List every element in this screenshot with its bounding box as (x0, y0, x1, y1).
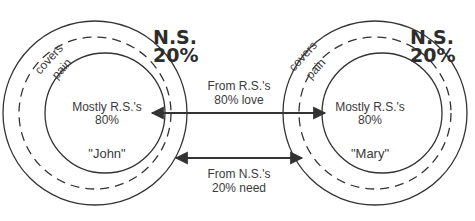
right-core-label: Mostly R.S.'s (335, 100, 405, 114)
left-core-pct: 80% (95, 113, 119, 127)
love-label-line2: 80% love (214, 93, 264, 107)
need-label-line2: 20% need (212, 181, 266, 195)
need-label-line1: From N.S.'s (208, 167, 271, 181)
love-label-line1: From R.S.'s (208, 79, 271, 93)
relationship-diagram: N.S. 20% covers pain Mostly R.S.'s 80% "… (0, 0, 475, 221)
left-ns-pct: 20% (153, 44, 198, 66)
left-core-label: Mostly R.S.'s (72, 100, 142, 114)
left-person-name: "John" (88, 146, 126, 161)
right-core-pct: 80% (358, 113, 382, 127)
right-person-name: "Mary" (351, 146, 390, 161)
right-ns-pct: 20% (410, 44, 455, 66)
